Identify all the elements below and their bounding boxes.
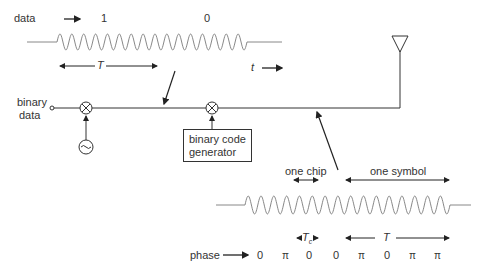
phase-6: π xyxy=(409,250,416,261)
binary-code-generator-box: binary code generator xyxy=(183,129,252,162)
phase-4: π xyxy=(358,250,365,261)
chip-period-label: Tc xyxy=(302,231,312,245)
input-label-line1: binary xyxy=(17,96,47,108)
phase-2: 0 xyxy=(306,249,312,261)
input-label-line2: data xyxy=(19,109,40,121)
one-symbol-label: one symbol xyxy=(370,165,426,177)
bit-1-label: 1 xyxy=(101,12,107,24)
phase-0: 0 xyxy=(257,249,263,261)
data-label: data xyxy=(14,12,35,24)
spread-waveform xyxy=(216,196,471,214)
antenna-icon xyxy=(392,36,408,52)
oscillator-icon xyxy=(79,140,93,154)
input-terminal xyxy=(50,106,54,110)
mixer-2 xyxy=(206,102,218,114)
time-label: t xyxy=(251,61,254,73)
phase-label: phase xyxy=(190,249,220,261)
phase-7: π xyxy=(434,250,441,261)
pointer-arrow-bottom xyxy=(317,112,338,170)
phase-1: π xyxy=(282,250,289,261)
bpsk-data-waveform xyxy=(27,34,282,50)
bit-0-label: 0 xyxy=(204,12,210,24)
code-generator-line1: binary code xyxy=(189,133,246,146)
mixer-1 xyxy=(80,102,92,114)
pointer-arrow-top xyxy=(164,71,175,104)
code-generator-line2: generator xyxy=(189,146,246,159)
one-chip-label: one chip xyxy=(285,165,327,177)
phase-5: 0 xyxy=(384,249,390,261)
phase-3: 0 xyxy=(333,249,339,261)
period-label: T xyxy=(97,59,104,71)
symbol-period-label: T xyxy=(383,231,390,243)
